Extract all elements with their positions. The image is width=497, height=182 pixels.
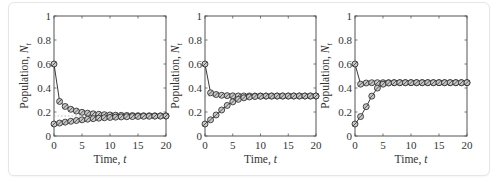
x-tick-label: 0: [352, 139, 358, 151]
x-tick-label: 5: [230, 139, 236, 151]
x-tick-label: 5: [380, 139, 386, 151]
y-tick-label: 0.4: [338, 82, 352, 94]
y-tick-label: 0.4: [37, 82, 51, 94]
data-point-marker: [363, 104, 369, 110]
data-point-marker: [358, 114, 364, 120]
chart-panel-3: 0510152000.20.40.60.81Time, tPopulation,…: [319, 10, 473, 166]
data-point-marker: [208, 117, 214, 123]
data-point-marker: [68, 118, 74, 124]
data-point-marker: [107, 114, 113, 120]
data-point-marker: [113, 114, 119, 120]
x-tick-label: 20: [462, 139, 474, 151]
data-point-marker: [430, 80, 436, 86]
data-point-marker: [258, 93, 264, 99]
y-tick-label: 0.8: [188, 34, 202, 46]
data-point-marker: [397, 80, 403, 86]
y-tick-label: 0.6: [338, 58, 352, 70]
data-point-marker: [62, 103, 68, 109]
y-tick-label: 1: [46, 10, 52, 22]
y-tick-label: 0.2: [188, 106, 202, 118]
y-tick-label: 1: [197, 10, 203, 22]
data-point-marker: [369, 93, 375, 99]
y-tick-label: 1: [347, 10, 353, 22]
x-tick-label: 15: [283, 139, 295, 151]
data-point-marker: [425, 80, 431, 86]
data-point-marker: [68, 106, 74, 112]
x-axis-label: Time, t: [94, 153, 128, 166]
data-point-marker: [157, 113, 163, 119]
data-point-marker: [85, 110, 91, 116]
data-point-marker: [101, 115, 107, 121]
data-point-marker: [386, 80, 392, 86]
data-point-marker: [436, 80, 442, 86]
data-point-marker: [141, 113, 147, 119]
data-point-marker: [419, 80, 425, 86]
chart-panel-1: 0510152000.20.40.60.81Time, tPopulation,…: [18, 10, 172, 166]
data-point-marker: [246, 94, 252, 100]
data-point-marker: [79, 117, 85, 123]
data-point-marker: [241, 95, 247, 101]
data-point-marker: [51, 61, 57, 67]
data-point-marker: [224, 102, 230, 108]
x-tick-label: 0: [51, 139, 57, 151]
data-point-marker: [296, 93, 302, 99]
data-point-marker: [374, 85, 380, 91]
data-point-marker: [202, 61, 208, 67]
data-point-marker: [352, 121, 358, 127]
data-point-marker: [230, 99, 236, 105]
x-axis-label: Time, t: [244, 153, 278, 166]
data-point-marker: [274, 93, 280, 99]
data-point-marker: [73, 108, 79, 114]
y-tick-label: 0: [347, 130, 353, 142]
data-point-marker: [79, 109, 85, 115]
data-point-marker: [73, 117, 79, 123]
plot-area: [355, 16, 467, 136]
y-tick-label: 0.2: [338, 106, 352, 118]
data-point-marker: [352, 61, 358, 67]
data-point-marker: [57, 120, 63, 126]
data-point-marker: [291, 93, 297, 99]
data-point-marker: [219, 92, 225, 98]
data-point-marker: [230, 93, 236, 99]
x-tick-label: 10: [105, 139, 117, 151]
data-point-marker: [391, 80, 397, 86]
y-tick-label: 0.4: [188, 82, 202, 94]
data-point-marker: [252, 93, 258, 99]
data-point-marker: [363, 80, 369, 86]
data-point-marker: [163, 113, 169, 119]
data-point-marker: [96, 115, 102, 121]
x-axis-label: Time, t: [395, 153, 429, 166]
x-tick-label: 10: [406, 139, 418, 151]
data-point-marker: [358, 81, 364, 87]
data-point-marker: [380, 81, 386, 87]
x-tick-label: 15: [434, 139, 446, 151]
data-point-marker: [369, 80, 375, 86]
data-point-marker: [442, 80, 448, 86]
data-point-marker: [414, 80, 420, 86]
data-point-marker: [90, 116, 96, 122]
data-point-marker: [208, 90, 214, 96]
data-point-marker: [447, 80, 453, 86]
data-point-marker: [146, 113, 152, 119]
data-point-marker: [458, 80, 464, 86]
x-tick-label: 15: [133, 139, 145, 151]
data-point-marker: [280, 93, 286, 99]
data-point-marker: [213, 92, 219, 98]
data-point-marker: [51, 121, 57, 127]
data-point-marker: [124, 114, 130, 120]
data-point-marker: [235, 96, 241, 102]
data-point-marker: [135, 113, 141, 119]
data-point-marker: [464, 80, 470, 86]
data-point-marker: [152, 113, 158, 119]
data-point-marker: [118, 114, 124, 120]
data-point-marker: [129, 114, 135, 120]
data-point-marker: [263, 93, 269, 99]
data-point-marker: [453, 80, 459, 86]
data-point-marker: [62, 119, 68, 125]
x-tick-label: 5: [79, 139, 85, 151]
x-tick-label: 20: [161, 139, 173, 151]
data-point-marker: [408, 80, 414, 86]
data-point-marker: [402, 80, 408, 86]
y-axis-label: Population, Nt: [319, 42, 334, 108]
plot-area: [205, 16, 316, 136]
